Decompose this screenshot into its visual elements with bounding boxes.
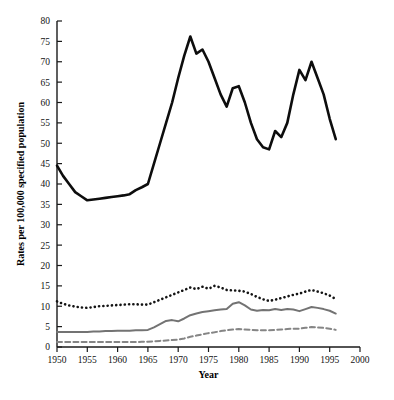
y-tick-label: 50: [41, 139, 51, 149]
y-tick-label: 75: [41, 37, 51, 47]
y-tick-label: 70: [41, 57, 51, 67]
x-tick-label: 1970: [169, 355, 188, 365]
y-axis-title: Rates per 100,000 specified population: [15, 102, 26, 266]
y-tick-label: 35: [41, 200, 51, 210]
x-tick-label: 1955: [78, 355, 97, 365]
x-tick-label: 1985: [260, 355, 279, 365]
x-axis-title: Year: [199, 369, 220, 380]
x-tick-label: 1990: [290, 355, 309, 365]
y-tick-label: 15: [41, 281, 51, 291]
y-tick-label: 65: [41, 78, 51, 88]
y-tick-label: 20: [41, 261, 51, 271]
y-tick-label: 10: [41, 302, 51, 312]
x-tick-label: 2000: [351, 355, 370, 365]
y-tick-label: 60: [41, 98, 51, 108]
y-tick-label: 25: [41, 241, 51, 251]
x-tick-label: 1980: [229, 355, 248, 365]
y-tick-label: 0: [45, 342, 50, 352]
series-dashed-gray: [57, 327, 336, 342]
y-tick-label: 80: [41, 16, 51, 26]
y-tick-label: 40: [41, 179, 51, 189]
line-chart-canvas: 0510152025303540455055606570758019501955…: [0, 0, 394, 400]
y-tick-label: 45: [41, 159, 51, 169]
x-tick-label: 1965: [138, 355, 157, 365]
x-tick-label: 1960: [108, 355, 127, 365]
figure-chart: 0510152025303540455055606570758019501955…: [0, 0, 394, 400]
y-tick-label: 30: [41, 220, 51, 230]
y-tick-label: 5: [45, 322, 50, 332]
series-thick-black: [57, 36, 336, 200]
x-tick-label: 1995: [320, 355, 339, 365]
series-dotted-black: [57, 286, 336, 308]
x-tick-label: 1950: [48, 355, 67, 365]
x-tick-label: 1975: [199, 355, 218, 365]
y-tick-label: 55: [41, 118, 51, 128]
figure-caption: [0, 387, 394, 400]
